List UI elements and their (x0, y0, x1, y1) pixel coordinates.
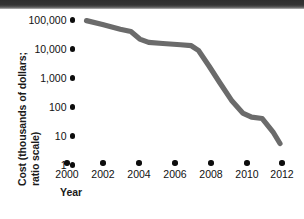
x-tick-dot (279, 160, 285, 166)
x-tick-label: 2006 (155, 168, 195, 180)
x-tick-label: 2010 (227, 168, 267, 180)
x-tick-label: 2008 (191, 168, 231, 180)
x-tick-2012: 2012 (262, 160, 302, 180)
x-tick-label: 2004 (119, 168, 159, 180)
x-tick-2010: 2010 (227, 160, 267, 180)
x-tick-2004: 2004 (119, 160, 159, 180)
x-tick-2008: 2008 (191, 160, 231, 180)
x-tick-dot (136, 160, 142, 166)
x-tick-label: 2000 (47, 168, 87, 180)
x-tick-dot (64, 160, 70, 166)
x-tick-label: 2012 (262, 168, 302, 180)
cost-trend-line (87, 21, 280, 144)
x-tick-label: 2002 (83, 168, 123, 180)
plot-area (0, 0, 304, 219)
x-tick-dot (172, 160, 178, 166)
x-tick-2002: 2002 (83, 160, 123, 180)
x-tick-dot (244, 160, 250, 166)
x-tick-dot (100, 160, 106, 166)
x-tick-2006: 2006 (155, 160, 195, 180)
x-tick-2000: 2000 (47, 160, 87, 180)
x-axis-title: Year (60, 186, 82, 198)
x-tick-dot (208, 160, 214, 166)
chart-figure: Cost (thousands of dollars; ratio scale)… (0, 0, 304, 219)
